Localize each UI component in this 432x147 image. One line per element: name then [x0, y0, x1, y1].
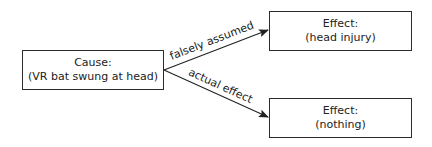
- edge-label-actual-effect: actual effect: [186, 66, 255, 107]
- effect-node-nothing: Effect: (nothing): [269, 98, 412, 138]
- effect-title: Effect:: [323, 17, 358, 31]
- effect-detail: (nothing): [315, 118, 366, 132]
- effect-node-head-injury: Effect: (head injury): [269, 11, 412, 51]
- cause-detail: (VR bat swung at head): [28, 70, 158, 84]
- effect-title: Effect:: [323, 104, 358, 118]
- cause-node: Cause: (VR bat swung at head): [22, 50, 164, 90]
- edge-falsely-assumed: falsely assumed: [164, 19, 268, 70]
- effect-detail: (head injury): [305, 31, 376, 45]
- edge-actual-effect: actual effect: [164, 66, 268, 117]
- cause-title: Cause:: [74, 56, 112, 70]
- edge-label-falsely-assumed: falsely assumed: [168, 19, 256, 63]
